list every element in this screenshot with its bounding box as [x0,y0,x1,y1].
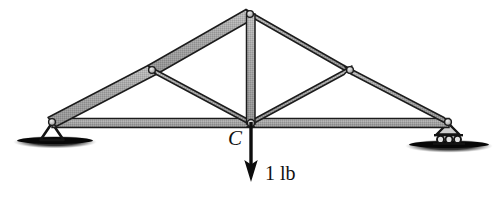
member-bottom-chord-right [251,119,449,128]
member-top-chord-left-lower [48,66,156,127]
joint-left-support [49,119,56,126]
joint-label-c: C [228,128,242,149]
joint-left-top [149,67,156,74]
truss-drawing [0,0,496,197]
joint-apex [247,11,254,18]
truss-figure: C 1 lb [0,0,496,197]
joint-right-top [347,67,354,74]
member-top-chord-left-upper [148,10,254,75]
truss-members [48,10,452,128]
member-bottom-chord-left [52,119,252,128]
member-top-chord-right-upper [246,10,352,75]
load-arrow [244,122,257,182]
load-magnitude-label: 1 lb [265,163,296,183]
joint-right-support [445,119,452,126]
ground-left [13,136,97,149]
member-top-chord-right-lower [344,66,452,127]
member-web-vertical-center [247,14,256,124]
